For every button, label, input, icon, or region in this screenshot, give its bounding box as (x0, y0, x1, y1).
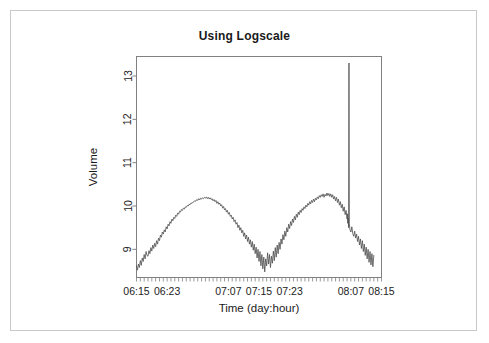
x-tick-label: 07:07 (215, 285, 241, 297)
x-tick-label: 08:15 (368, 285, 394, 297)
chart-canvas: 910111213 06:1506:2307:0707:1507:2308:07… (0, 0, 489, 343)
y-tick-label: 13 (122, 70, 134, 82)
x-axis-labels: 06:1506:2307:0707:1507:2308:0708:15 (123, 285, 394, 297)
x-tick-label: 06:23 (154, 285, 180, 297)
x-tick-label: 08:07 (338, 285, 364, 297)
y-axis: 910111213 (122, 70, 137, 252)
y-tick-label: 11 (122, 157, 134, 168)
y-tick-label: 12 (122, 113, 134, 125)
x-axis-ticks (137, 278, 382, 282)
data-series-volume (137, 63, 374, 272)
y-tick-label: 9 (122, 246, 134, 252)
x-axis-title: Time (day:hour) (219, 302, 300, 314)
y-axis-title: Volume (87, 148, 99, 186)
y-tick-label: 10 (122, 200, 134, 212)
chart-page: Using Logscale 910111213 06:1506:2307:07… (0, 0, 489, 343)
x-tick-label: 07:23 (276, 285, 302, 297)
plot-frame (137, 57, 382, 278)
x-tick-label: 06:15 (123, 285, 149, 297)
x-tick-label: 07:15 (246, 285, 272, 297)
